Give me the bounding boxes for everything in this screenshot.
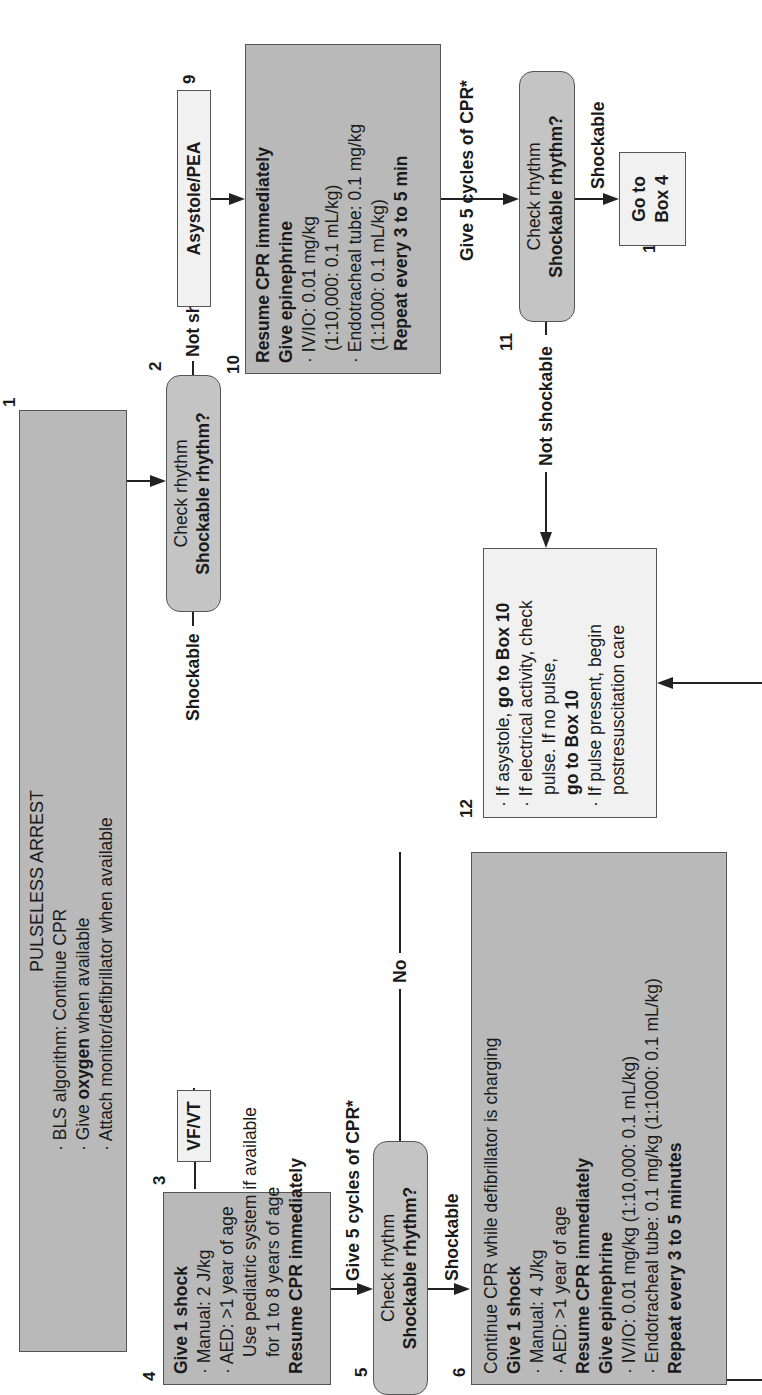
box1-line1: · BLS algorithm: Continue CPR xyxy=(49,909,72,1151)
edge-label-shockable-11: Shockable xyxy=(588,101,608,189)
box6-number: 6 xyxy=(450,1368,470,1377)
box13-go-to-box4: Go to Box 4 xyxy=(619,152,686,246)
box10-line1: Resume CPR immediately xyxy=(252,147,275,363)
edge-label-no: No xyxy=(390,960,410,983)
box2-check-rhythm: Check rhythm Shockable rhythm? xyxy=(166,375,221,612)
box12-b2-bold: go to Box 10 xyxy=(561,690,584,795)
box2-line1: Check rhythm xyxy=(170,376,193,611)
box5-number: 5 xyxy=(352,1368,372,1377)
edge-5-6 xyxy=(428,1288,454,1290)
edge-5-12-b xyxy=(399,852,401,953)
box5-line1: Check rhythm xyxy=(377,1142,400,1394)
box4-number: 4 xyxy=(140,1372,160,1381)
edge-6-out xyxy=(727,1379,762,1381)
box4-bullet2-cont1: Use pediatric system if available xyxy=(239,1107,262,1357)
box6-bullet2: · AED: >1 year of age xyxy=(549,1206,572,1374)
box11-line1: Check rhythm xyxy=(523,72,546,321)
box9-label: Asystole/PEA xyxy=(183,91,206,306)
edge-11-13 xyxy=(575,198,603,200)
box12-b2-cont: pulse. If no pulse, xyxy=(538,658,561,795)
arrowhead-icon xyxy=(503,193,519,205)
arrowhead-icon xyxy=(150,475,166,487)
box10-line2: Give epinephrine xyxy=(275,221,298,363)
arrowhead-icon xyxy=(540,532,552,548)
box6-line3: Resume CPR immediately xyxy=(572,1158,595,1374)
box12-check-pulse: · If asystole, go to Box 10 · If electri… xyxy=(483,548,657,818)
box10-bullet1: · IV/IO: 0.01 mg/kg xyxy=(298,216,321,363)
box10-number: 10 xyxy=(224,355,244,374)
arrowhead-icon xyxy=(229,193,245,205)
box1-number: 1 xyxy=(0,398,20,407)
edge-label-shockable-5: Shockable xyxy=(442,1193,462,1281)
edge-4-5 xyxy=(331,1288,357,1290)
box12-number: 12 xyxy=(457,799,477,818)
box10-resume-cpr: Resume CPR immediately Give epinephrine … xyxy=(245,44,441,374)
box5-check-rhythm: Check rhythm Shockable rhythm? xyxy=(373,1141,428,1395)
box12-b3-cont: postresuscitation care xyxy=(607,625,630,795)
box6-line5: Repeat every 3 to 5 minutes xyxy=(664,1143,687,1374)
arrowhead-icon xyxy=(603,193,619,205)
arrowhead-icon xyxy=(454,1283,470,1295)
box5-line2: Shockable rhythm? xyxy=(399,1142,422,1394)
edge-label-cpr-10-11: Give 5 cycles of CPR* xyxy=(457,80,477,261)
edge-3-connector xyxy=(193,1088,195,1090)
box13-line2: Box 4 xyxy=(651,153,674,245)
box1-line2: · Give oxygen when available xyxy=(72,918,95,1151)
edge-2-3-a xyxy=(192,612,194,626)
box2-number: 2 xyxy=(146,362,166,371)
box1-line3: · Attach monitor/defibrillator when avai… xyxy=(95,817,118,1151)
box4-footer: Resume CPR immediately xyxy=(285,1158,308,1374)
box12-b3: · If pulse present, begin xyxy=(584,624,607,807)
box10-bullet1-cont: (1:10,000: 0.1 mL/kg) xyxy=(321,185,344,351)
box12-b2: · If electrical activity, check xyxy=(515,600,538,807)
edge-3-4-h xyxy=(194,1162,196,1189)
box4-bullet1: · Manual: 2 J/kg xyxy=(193,1249,216,1374)
box3-number: 3 xyxy=(150,1176,170,1185)
box1-title: PULSELESS ARREST xyxy=(26,411,49,1351)
box10-bullet2: · Endotracheal tube: 0.1 mg/kg xyxy=(344,124,367,363)
box4-give-shock: Give 1 shock · Manual: 2 J/kg · AED: >1 … xyxy=(163,1192,331,1385)
edge-label-shockable-2: Shockable xyxy=(183,633,203,721)
edge-1-2 xyxy=(127,480,151,482)
box12-b1: · If asystole, go to Box 10 xyxy=(492,603,515,807)
box4-bullet2: · AED: >1 year of age xyxy=(216,1206,239,1374)
box4-bullet2-cont2: for 1 to 8 years of age xyxy=(262,1187,285,1357)
edge-label-cpr-4-5: Give 5 cycles of CPR* xyxy=(343,1100,363,1281)
edge-11-12-a xyxy=(545,322,547,335)
box6-bullet4: · Endotracheal tube: 0.1 mg/kg (1:1000: … xyxy=(641,978,664,1374)
box6-line4: Give epinephrine xyxy=(595,1232,618,1374)
box11-line2: Shockable rhythm? xyxy=(545,72,568,321)
box13-line1: Go to xyxy=(628,153,651,245)
box1-pulseless-arrest: PULSELESS ARREST · BLS algorithm: Contin… xyxy=(19,410,127,1352)
box6-line2: Give 1 shock xyxy=(503,1266,526,1374)
box3-label: VF/VT xyxy=(183,1091,206,1161)
arrowhead-icon xyxy=(657,677,673,689)
box6-line1: Continue CPR while defibrillator is char… xyxy=(480,1037,503,1374)
box9-asystole-pea: Asystole/PEA xyxy=(177,90,211,307)
box6-bullet1: · Manual: 4 J/kg xyxy=(526,1249,549,1374)
arrowhead-icon xyxy=(357,1283,373,1295)
box9-number: 9 xyxy=(180,75,200,84)
edge-6-12-up xyxy=(667,682,762,684)
box4-title: Give 1 shock xyxy=(170,1266,193,1374)
edge-2-9-a xyxy=(192,361,194,375)
box6-bullet3: · IV/IO: 0.01 mg/kg (1:10,000: 0.1 mL/kg… xyxy=(618,1056,641,1374)
box10-line3: Repeat every 3 to 5 min xyxy=(390,156,413,352)
box11-number: 11 xyxy=(497,333,517,351)
edge-label-not-shockable-11: Not shockable xyxy=(536,346,556,466)
box2-line2: Shockable rhythm? xyxy=(192,376,215,611)
edge-5-12-a xyxy=(399,989,401,1141)
box6-continue-cpr: Continue CPR while defibrillator is char… xyxy=(471,852,727,1385)
box3-vf-vt: VF/VT xyxy=(177,1090,211,1162)
box10-bullet2-cont: (1:1000: 0.1 mL/kg) xyxy=(367,199,390,351)
edge-9-10 xyxy=(211,198,229,200)
edge-11-12-b xyxy=(545,472,547,532)
box11-check-rhythm: Check rhythm Shockable rhythm? xyxy=(519,71,575,322)
